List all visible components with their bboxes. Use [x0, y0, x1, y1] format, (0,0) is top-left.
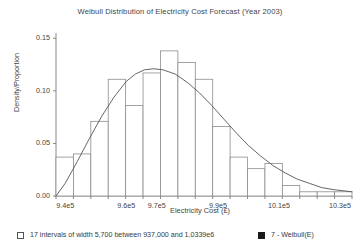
- histogram-bar: [143, 73, 160, 196]
- x-tick-label: 9.7e5: [137, 202, 177, 209]
- x-tick-label: 9.4e5: [45, 202, 85, 209]
- legend-label-histogram: 17 intervals of width 5,700 between 937,…: [30, 231, 214, 239]
- x-tick-label: 10.3e5: [320, 202, 360, 209]
- histogram-bar: [108, 79, 125, 196]
- legend-item-histogram: 17 intervals of width 5,700 between 937,…: [17, 231, 214, 239]
- legend-item-weibull: 7 - Weibull(E): [258, 231, 314, 239]
- histogram-bar: [282, 185, 299, 196]
- histogram-bar: [160, 51, 177, 196]
- histogram-bar: [265, 163, 282, 196]
- y-tick-label: 0.00: [24, 192, 50, 199]
- y-tick-label: 0.15: [24, 34, 50, 41]
- histogram-bar: [56, 157, 73, 196]
- y-tick-label: 0.05: [24, 139, 50, 146]
- histogram-bar: [300, 192, 317, 196]
- x-tick-label: 9.9e5: [198, 202, 238, 209]
- histogram-bars: [56, 51, 352, 196]
- histogram-bar: [73, 154, 90, 196]
- histogram-bar: [230, 157, 247, 196]
- y-tick-label: 0.10: [24, 87, 50, 94]
- histogram-bar: [248, 169, 265, 196]
- chart-title: Weibull Distribution of Electricity Cost…: [0, 7, 360, 16]
- histogram-bar: [335, 192, 352, 196]
- histogram-bar: [195, 79, 212, 196]
- legend-label-weibull: 7 - Weibull(E): [271, 231, 314, 239]
- histogram-bar: [126, 106, 143, 196]
- y-axis-label: Density/Proportion: [12, 35, 21, 131]
- filled-square-icon: [258, 232, 265, 239]
- histogram-bar: [91, 121, 108, 196]
- chart-legend: 17 intervals of width 5,700 between 937,…: [0, 231, 360, 245]
- histogram-bar: [178, 62, 195, 196]
- histogram-bar: [317, 192, 334, 196]
- chart-container: Weibull Distribution of Electricity Cost…: [0, 0, 360, 251]
- x-tick-label: 10.1e5: [259, 202, 299, 209]
- open-square-icon: [17, 232, 24, 239]
- histogram-bar: [213, 127, 230, 196]
